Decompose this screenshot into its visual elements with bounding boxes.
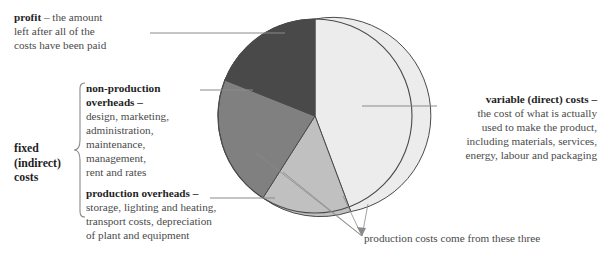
callout-variable-direct-costs-body: the cost of what is actually used to mak… (466, 107, 597, 161)
note-production-costs: production costs come from these three (364, 231, 596, 245)
pie-diagram-page: profit – the amount left after all of th… (0, 0, 600, 266)
label-fixed-indirect-costs: fixed (indirect) costs (14, 141, 76, 185)
callout-production-overheads-body: storage, lighting and heating, transport… (86, 201, 216, 241)
callout-profit: profit – the amount left after all of th… (14, 10, 174, 52)
callout-non-production-overheads-lead: non-production overheads – (86, 82, 160, 108)
callout-production-overheads: production overheads – storage, lighting… (86, 186, 276, 242)
callout-profit-lead: profit (14, 11, 41, 23)
callout-non-production-overheads: non-production overheads – design, marke… (86, 81, 208, 179)
callout-production-overheads-lead: production overheads – (86, 187, 198, 199)
callout-non-production-overheads-body: design, marketing, administration, maint… (86, 110, 169, 178)
callout-variable-direct-costs-lead: variable (direct) costs – (486, 93, 597, 105)
callout-variable-direct-costs: variable (direct) costs – the cost of wh… (437, 92, 597, 162)
